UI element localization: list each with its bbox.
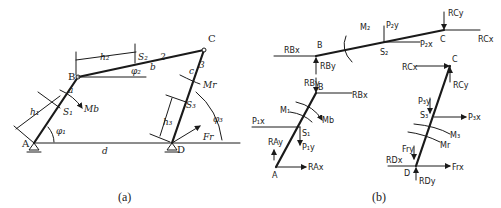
label-b-1: B (318, 83, 324, 92)
label-s1-b: S₁ (302, 129, 310, 138)
label-rcx-2: RCx (478, 35, 494, 44)
label-link-3: 3 (199, 60, 205, 70)
label-mr-b: Mr (440, 141, 451, 150)
moment-m3-arc (414, 124, 450, 134)
label-link-a: a (68, 85, 73, 95)
label-p1y: P₁y (302, 143, 315, 152)
label-rdy: RDy (419, 177, 436, 186)
label-phi1: φ₁ (56, 126, 66, 136)
label-rbx-2: RBx (284, 46, 300, 55)
label-s3-b: S₃ (420, 111, 428, 120)
label-fry: Fry (402, 145, 414, 154)
label-s2: S₂ (138, 52, 148, 62)
moment-mr-arc (180, 75, 200, 84)
label-s2-b: S₂ (380, 48, 388, 57)
label-p2y: P₂y (386, 21, 399, 30)
label-frx: Frx (452, 163, 464, 172)
figure-b: RBx B RBy M₂ P₂y P₂x S₂ C RCy RCx RBy B … (252, 9, 494, 204)
label-p1x: P₁x (252, 117, 265, 126)
label-c: C (208, 33, 216, 44)
label-rdx: RDx (386, 156, 403, 165)
label-s3: S₃ (186, 100, 196, 110)
label-b-2: B (317, 41, 323, 50)
label-c-2: C (440, 35, 446, 44)
caption-a: (a) (118, 190, 131, 204)
label-rcy-3: RCy (453, 81, 469, 90)
label-link-2: 2 (159, 52, 166, 62)
label-rcy-2: RCy (448, 9, 464, 18)
label-link-c: c (189, 66, 194, 76)
label-m3: M₃ (450, 131, 460, 140)
label-d: D (177, 144, 185, 155)
label-phi3: φ₃ (213, 114, 223, 124)
label-p3x: P₃x (468, 113, 481, 122)
label-link-b: b (150, 62, 156, 72)
figure-a: A B C D a b c d 2 3 S₁ S₂ S₃ h₁ h₂ h₃ φ₁… (14, 33, 240, 204)
label-mb: Mb (83, 104, 99, 114)
label-h3: h₃ (163, 117, 173, 127)
caption-b: (b) (372, 190, 386, 204)
label-p3y: P₃y (418, 97, 431, 106)
label-p2x: P₂x (420, 40, 433, 49)
label-rby-2: RBy (320, 62, 336, 71)
label-c-3: C (452, 55, 458, 64)
label-a-b: A (272, 171, 278, 180)
label-mr: Mr (202, 80, 217, 90)
label-link-d: d (102, 146, 108, 156)
label-h1: h₁ (30, 107, 39, 117)
label-phi2: φ₂ (131, 66, 141, 76)
label-m1: M₁ (280, 106, 290, 115)
label-rcx-3: RCx (402, 63, 418, 72)
mechanism-figure: A B C D a b c d 2 3 S₁ S₂ S₃ h₁ h₂ h₃ φ₁… (0, 0, 501, 208)
label-mb-b: Mb (322, 116, 334, 125)
label-ray: RAy (268, 138, 283, 147)
label-a: A (21, 138, 30, 149)
label-fr: Fr (202, 132, 214, 142)
angle-phi1-arc (48, 127, 54, 142)
label-h2: h₂ (100, 52, 110, 62)
label-rbx-1: RBx (352, 91, 368, 100)
label-m2: M₂ (360, 23, 370, 32)
label-s1: S₁ (63, 107, 73, 117)
label-b: B (68, 71, 75, 82)
pivot-c (202, 48, 206, 52)
label-d-3: D (404, 169, 410, 178)
label-rax: RAx (308, 163, 324, 172)
